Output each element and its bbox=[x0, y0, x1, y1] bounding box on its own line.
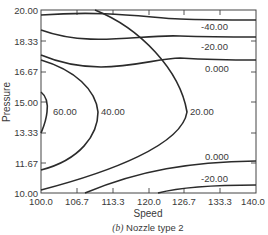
x-tick-label: 100.0 bbox=[29, 196, 53, 207]
y-axis-ticks: 20.00 18.33 16.67 15.00 13.33 11.67 10.0… bbox=[14, 5, 38, 199]
x-tick-label: 140.0 bbox=[241, 196, 265, 207]
caption-prefix: (b) bbox=[112, 223, 123, 234]
x-axis-ticks: 100.0 106.7 113.3 120.0 126.7 133.3 140.… bbox=[29, 196, 265, 207]
caption-text: Nozzle type 2 bbox=[123, 222, 183, 233]
y-tick-label: 20.00 bbox=[14, 5, 38, 16]
contour-label-60: 60.00 bbox=[53, 106, 77, 117]
y-tick-label: 16.67 bbox=[14, 66, 38, 77]
contour-label-minus20-lower: -20.00 bbox=[201, 173, 228, 184]
contour-lines bbox=[41, 10, 256, 193]
contour-line-20 bbox=[41, 10, 187, 190]
x-tick-label: 120.0 bbox=[137, 196, 161, 207]
y-axis-title: Pressure bbox=[1, 82, 12, 122]
x-tick-label: 126.7 bbox=[172, 196, 196, 207]
contour-label-minus40: -40.00 bbox=[201, 21, 228, 32]
contour-label-0-lower: 0.000 bbox=[205, 151, 229, 162]
y-tick-label: 18.33 bbox=[14, 36, 38, 47]
contour-line-60 bbox=[41, 92, 47, 133]
x-tick-label: 106.7 bbox=[65, 196, 89, 207]
contour-labels: 60.00 40.00 20.00 -40.00 -20.00 0.000 0.… bbox=[53, 21, 229, 185]
contour-label-20: 20.00 bbox=[190, 106, 214, 117]
contour-label-40: 40.00 bbox=[101, 106, 125, 117]
x-axis-title: Speed bbox=[134, 208, 163, 219]
contour-line-minus20-lower bbox=[158, 185, 256, 193]
y-tick-label: 13.33 bbox=[14, 127, 38, 138]
x-tick-label: 113.3 bbox=[101, 196, 124, 207]
contour-line-0-lower bbox=[85, 161, 256, 193]
figure-caption: (b) Nozzle type 2 bbox=[112, 222, 183, 234]
x-tick-label: 133.3 bbox=[208, 196, 232, 207]
contour-label-0-upper: 0.000 bbox=[205, 63, 229, 74]
contour-line-minus40 bbox=[41, 13, 256, 20]
contour-label-minus20-upper: -20.00 bbox=[201, 41, 228, 52]
contour-chart: 20.00 18.33 16.67 15.00 13.33 11.67 10.0… bbox=[0, 0, 268, 235]
y-tick-label: 11.67 bbox=[15, 158, 38, 169]
y-tick-label: 15.00 bbox=[14, 97, 38, 108]
